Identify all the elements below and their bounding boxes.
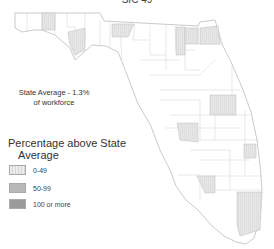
- county-shaded: [68, 28, 85, 55]
- county-shaded: [210, 95, 236, 115]
- legend-title-line1: Percentage above State: [8, 137, 126, 149]
- legend-label: 50-99: [33, 185, 51, 192]
- legend-item-50-99: 50-99: [9, 183, 51, 193]
- state-outline: [15, 13, 262, 244]
- florida-county-map: [0, 0, 274, 249]
- legend-label: 100 or more: [33, 201, 71, 208]
- state-average-note: State Average - 1.3% of workforce: [6, 88, 102, 108]
- county-shaded: [237, 192, 262, 236]
- county-shaded: [176, 27, 185, 55]
- legend-swatch-light: [9, 165, 26, 175]
- legend-item-0-49: 0-49: [9, 165, 47, 175]
- state-average-line2: of workforce: [6, 98, 102, 108]
- county-shaded: [185, 28, 198, 44]
- legend-swatch-medium: [9, 183, 26, 193]
- state-average-line1: State Average - 1.3%: [6, 88, 102, 98]
- county-shaded: [244, 144, 256, 158]
- county-shaded: [42, 13, 55, 30]
- legend-title-line2: Average: [8, 149, 126, 161]
- county-shaded: [177, 123, 198, 142]
- legend-item-100-or-more: 100 or more: [9, 199, 71, 209]
- county-shaded: [200, 26, 220, 44]
- legend-title: Percentage above State Average: [8, 137, 126, 161]
- legend-swatch-dark: [9, 199, 26, 209]
- legend-label: 0-49: [33, 167, 47, 174]
